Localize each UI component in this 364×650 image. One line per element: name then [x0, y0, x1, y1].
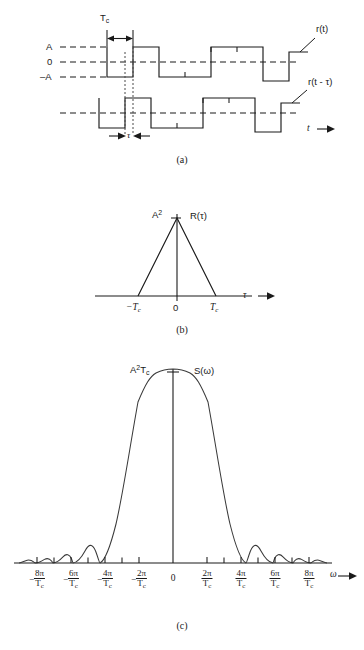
panel-b-caption: (b) — [0, 324, 364, 335]
tc-arrow — [107, 35, 133, 41]
level-label-zero: 0 — [47, 57, 52, 67]
panel-c-axis-label: ω — [330, 570, 337, 580]
panel-b-peak-label: A2 — [152, 209, 162, 220]
panel-c-xticklabel-zero: 0 — [171, 573, 176, 583]
panel-c-peak-label: A2Tc — [130, 364, 150, 376]
panel-c-caption: (c) — [0, 620, 364, 631]
panel-a-caption: (a) — [0, 154, 364, 165]
panel-b-axis-arrow — [258, 292, 275, 300]
panel-a-graphics — [60, 30, 335, 140]
panel-c-xticklabel-neg8pi: −8πTc — [29, 569, 45, 591]
panel-b-axis-label: τ — [243, 291, 246, 301]
signal-label-rt: r(t) — [316, 24, 328, 34]
panel-c-xticklabel-neg4pi: −4πTc — [97, 569, 113, 591]
panel-b-xtick-neg-tc: −Tc — [126, 303, 141, 314]
panel-b-xtick-pos-tc: Tc — [210, 303, 218, 314]
panel-c-xticklabel-neg2pi: −2πTc — [131, 569, 147, 591]
panel-c-xticklabel-neg6pi: −6πTc — [63, 569, 79, 591]
level-label-minus-a: –A — [40, 72, 52, 82]
tc-label: Tc — [100, 13, 109, 24]
level-label-plus-a: A — [46, 42, 52, 52]
rt-leader — [300, 38, 315, 52]
panel-b-graphics — [95, 214, 275, 301]
time-axis-label: t — [307, 124, 310, 134]
panel-c-xticklabel-4pi: 4πTc — [235, 569, 246, 591]
panel-c-graphics — [14, 369, 357, 580]
panel-c-function-label: S(ω) — [194, 366, 214, 376]
rt-tau-leader — [292, 90, 307, 103]
tau-label: τ — [127, 131, 130, 140]
panel-c-xticklabel-8pi: 8πTc — [303, 569, 314, 591]
panel-c-xticklabel-6pi: 6πTc — [269, 569, 280, 591]
figure-root: Tc A 0 –A r(t) r(t - τ) τ t (a) A2 R(τ) … — [0, 0, 364, 650]
time-axis-arrow — [317, 125, 335, 133]
waveform-rt-tau — [99, 98, 300, 132]
signal-label-rt-tau: r(t - τ) — [308, 77, 332, 87]
panel-c-xticklabel-2pi: 2πTc — [201, 569, 212, 591]
panel-b-xtick-zero: 0 — [173, 303, 178, 313]
panel-c-axis-arrow — [338, 572, 357, 580]
panel-b-function-label: R(τ) — [190, 211, 207, 221]
waveform-rt — [107, 47, 308, 81]
